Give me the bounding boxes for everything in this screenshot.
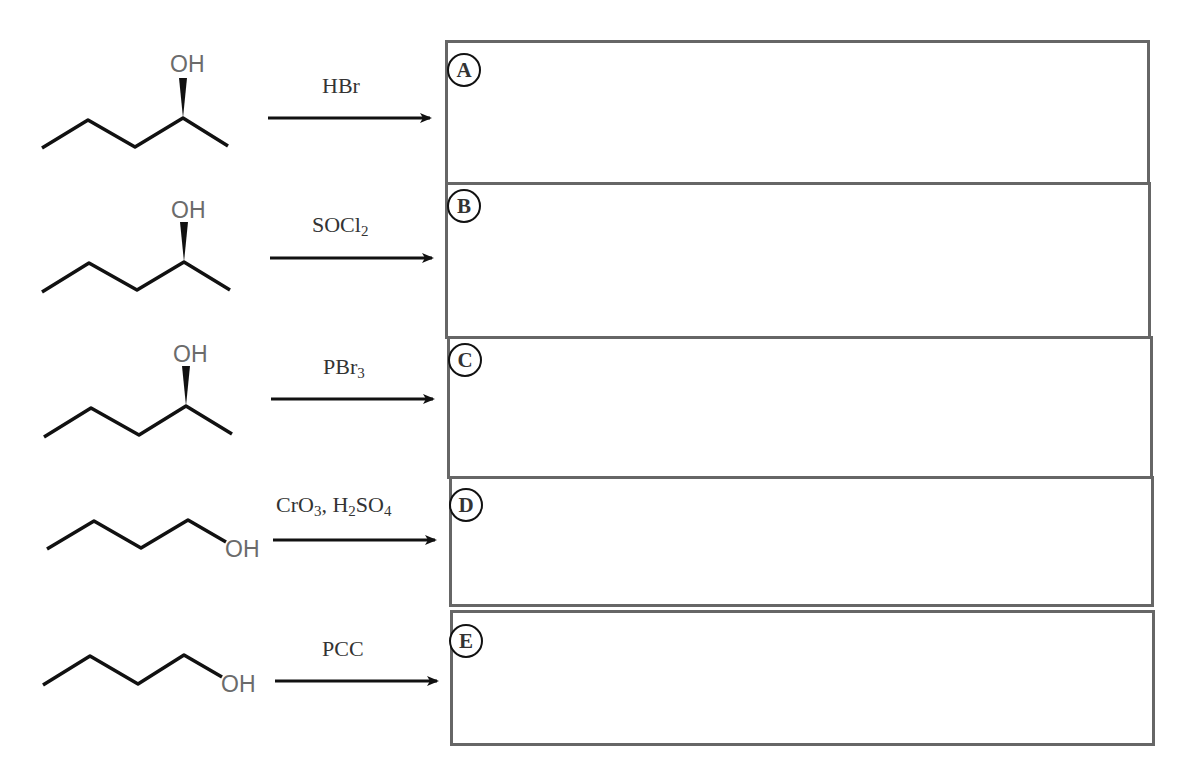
molecule-c: OH [44, 341, 232, 437]
badge-c-text: C [457, 348, 472, 373]
answer-box-a[interactable] [445, 40, 1150, 185]
molecule-b: OH [42, 197, 230, 292]
answer-box-e[interactable] [450, 610, 1155, 746]
badge-d-text: D [458, 493, 473, 518]
oh-label: OH [170, 51, 205, 77]
oh-label: OH [173, 341, 208, 367]
reagent-a-text: HBr [322, 73, 360, 98]
reagent-d-s2: 2 [348, 503, 356, 519]
reagent-b-sub: 2 [361, 223, 369, 239]
answer-box-c[interactable] [447, 336, 1153, 479]
reagent-c-main: PBr [323, 354, 357, 379]
reagent-d-p2: , H [321, 492, 348, 517]
reagent-c-sub: 3 [357, 365, 365, 381]
label-badge-e: E [449, 624, 483, 658]
reagent-c: PBr3 [323, 354, 365, 380]
badge-e-text: E [459, 629, 473, 654]
answer-box-b[interactable] [445, 182, 1151, 339]
label-badge-b: B [447, 189, 481, 223]
reagent-a: HBr [322, 73, 360, 99]
reagent-d-s3: 4 [384, 503, 392, 519]
molecule-d: OH [47, 520, 260, 562]
reagent-e-main: PCC [322, 636, 364, 661]
oh-label: OH [171, 197, 206, 223]
reagent-d: CrO3, H2SO4 [276, 492, 391, 518]
reagent-d-p1: CrO [276, 492, 314, 517]
molecule-e: OH [43, 655, 256, 697]
oh-label: OH [221, 671, 256, 697]
reagent-d-p3: SO [356, 492, 384, 517]
badge-b-text: B [457, 194, 471, 219]
wedge-bond [179, 78, 187, 118]
label-badge-d: D [449, 488, 483, 522]
answer-box-d[interactable] [449, 476, 1154, 607]
badge-a-text: A [456, 58, 471, 83]
label-badge-c: C [448, 343, 482, 377]
reagent-e: PCC [322, 636, 364, 662]
wedge-bond [180, 222, 188, 262]
wedge-bond [182, 366, 190, 406]
molecule-a: OH [42, 51, 228, 148]
label-badge-a: A [447, 53, 481, 87]
reagent-b: SOCl2 [312, 212, 368, 238]
oh-label: OH [225, 536, 260, 562]
reagent-b-main: SOCl [312, 212, 361, 237]
reaction-worksheet: OH OH OH OH [0, 0, 1191, 782]
